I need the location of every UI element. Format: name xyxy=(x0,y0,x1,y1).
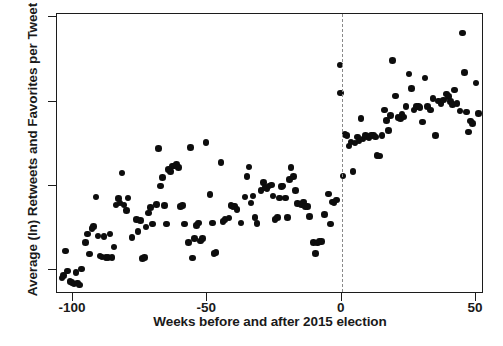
y-axis-label: Average (ln) Retweets and Favorites per … xyxy=(25,0,40,300)
plot-area xyxy=(56,13,483,293)
data-point xyxy=(321,211,328,218)
data-point xyxy=(125,195,132,202)
data-point xyxy=(107,231,114,238)
data-point xyxy=(463,109,470,116)
data-point xyxy=(207,191,214,198)
x-tick-label: 0 xyxy=(311,300,371,315)
data-point xyxy=(155,145,162,152)
data-point xyxy=(459,30,466,37)
y-tick-mark xyxy=(48,185,56,186)
data-point xyxy=(234,206,241,213)
data-point xyxy=(64,268,71,275)
data-point xyxy=(284,214,291,221)
data-point xyxy=(473,80,480,87)
data-point xyxy=(451,87,458,94)
x-tick-label: 50 xyxy=(445,300,503,315)
data-point xyxy=(312,250,319,257)
data-point xyxy=(419,119,426,126)
data-point xyxy=(167,168,174,175)
data-point xyxy=(149,221,156,228)
data-point xyxy=(280,183,287,190)
data-point xyxy=(306,213,313,220)
data-point xyxy=(290,173,297,180)
data-point xyxy=(469,120,476,127)
data-point xyxy=(385,127,392,134)
data-point xyxy=(401,114,408,121)
data-point xyxy=(141,254,148,261)
data-point xyxy=(282,195,289,202)
data-point xyxy=(248,200,255,207)
data-point xyxy=(350,168,357,175)
data-point xyxy=(403,103,410,110)
data-point xyxy=(274,214,281,221)
data-point xyxy=(159,174,166,181)
x-tick-label: -100 xyxy=(42,300,102,315)
data-point xyxy=(372,134,379,141)
data-point xyxy=(379,132,386,139)
data-point xyxy=(250,193,257,200)
data-point xyxy=(238,220,245,227)
data-point xyxy=(90,223,97,230)
data-point xyxy=(461,69,468,76)
x-axis-label: Weeks before and after 2015 election xyxy=(56,314,484,329)
y-tick-mark xyxy=(48,101,56,102)
y-tick-mark xyxy=(48,269,56,270)
data-point xyxy=(376,153,383,160)
data-point xyxy=(432,132,439,139)
data-point xyxy=(327,221,334,228)
data-point xyxy=(179,202,186,209)
data-point xyxy=(218,159,225,166)
data-point xyxy=(344,132,351,139)
data-point xyxy=(465,129,472,136)
data-point xyxy=(76,282,83,289)
data-point xyxy=(246,164,253,171)
data-point xyxy=(304,203,311,210)
data-point xyxy=(82,239,89,246)
data-point xyxy=(422,75,429,82)
data-point xyxy=(111,244,118,251)
data-point xyxy=(119,170,126,177)
data-point xyxy=(406,71,413,78)
data-point xyxy=(135,228,142,235)
data-point xyxy=(161,202,168,209)
data-point xyxy=(93,194,100,201)
data-point xyxy=(78,266,85,273)
data-point xyxy=(454,100,461,107)
data-point xyxy=(417,104,424,111)
data-point xyxy=(157,183,164,190)
data-point xyxy=(457,108,464,115)
data-point xyxy=(175,164,182,171)
data-point xyxy=(226,215,233,222)
x-tick-label: -50 xyxy=(176,300,236,315)
data-point xyxy=(389,57,396,64)
scatter-plot-figure: Average (ln) Retweets and Favorites per … xyxy=(0,0,503,346)
data-point xyxy=(325,191,332,198)
data-point xyxy=(244,173,251,180)
data-point xyxy=(86,251,93,258)
data-point xyxy=(268,182,275,189)
data-point xyxy=(199,235,206,242)
data-point xyxy=(392,93,399,100)
data-point xyxy=(129,234,136,241)
data-point xyxy=(292,187,299,194)
data-point xyxy=(427,107,434,114)
election-dashed-line xyxy=(342,14,343,292)
data-point xyxy=(181,221,188,228)
data-point xyxy=(333,197,340,204)
data-point xyxy=(123,207,130,214)
data-point xyxy=(153,201,160,208)
data-point xyxy=(213,249,220,256)
data-point xyxy=(203,139,210,146)
data-point xyxy=(62,248,69,255)
data-point xyxy=(209,220,216,227)
data-point xyxy=(187,144,194,151)
data-point xyxy=(242,194,249,201)
data-point xyxy=(387,112,394,119)
data-point xyxy=(109,254,116,261)
data-point xyxy=(189,255,196,262)
data-point xyxy=(254,220,261,227)
data-point xyxy=(358,115,365,122)
data-point xyxy=(408,85,415,92)
data-point xyxy=(137,217,144,224)
y-tick-mark xyxy=(48,16,56,17)
